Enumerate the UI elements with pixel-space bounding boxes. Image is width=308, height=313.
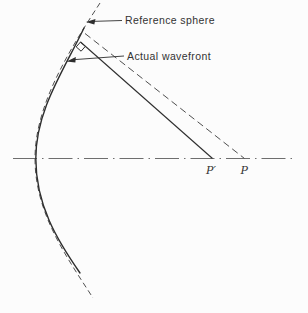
reference-sphere-label: Reference sphere <box>125 14 215 26</box>
reference-sphere-arrowhead-icon <box>86 19 96 24</box>
p-label: P <box>240 164 249 177</box>
actual-wavefront-label: Actual wavefront <box>127 50 211 62</box>
right-angle-marker <box>76 42 85 51</box>
wavefront-aberration-figure: Reference sphere Actual wavefront P′ P <box>0 0 308 313</box>
p-prime-label: P′ <box>205 164 216 177</box>
actual-wavefront-curve <box>36 28 84 273</box>
wavefront-diagram-canvas: Reference sphere Actual wavefront P′ P <box>0 0 308 313</box>
